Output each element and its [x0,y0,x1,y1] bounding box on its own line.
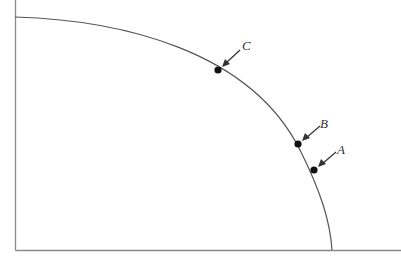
point-c-marker [214,66,221,73]
point-b-arrowhead-icon [302,133,310,141]
point-a: A [310,142,345,174]
point-b: B [294,116,328,148]
ppf-diagram: C B A [0,0,401,257]
frontier-curve [15,17,332,250]
point-b-marker [294,140,301,147]
point-c: C [214,38,251,74]
point-c-arrow [226,50,240,63]
point-b-label: B [320,116,328,131]
point-a-label: A [336,142,345,157]
point-c-label: C [242,38,251,53]
point-a-marker [310,166,317,173]
point-a-arrowhead-icon [318,159,326,167]
